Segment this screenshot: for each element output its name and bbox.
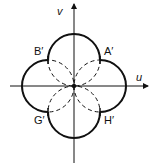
label-a-prime: A′: [104, 46, 113, 57]
conformal-map-diagram: v u A′ B′ G′ H′: [0, 0, 158, 165]
diagram-canvas: [0, 0, 158, 165]
label-h-prime: H′: [104, 115, 114, 126]
label-b-prime: B′: [34, 46, 43, 57]
origin-point: [72, 84, 76, 88]
u-axis-label: u: [136, 72, 142, 83]
v-axis-label: v: [57, 6, 63, 17]
label-g-prime: G′: [34, 115, 45, 126]
